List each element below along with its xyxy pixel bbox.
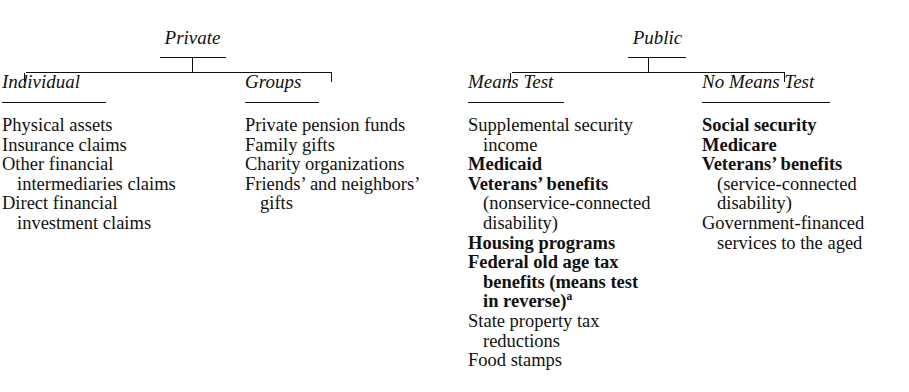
list-item: Direct financialinvestment claims xyxy=(2,194,217,233)
list-item: Government-financedservices to the aged xyxy=(702,214,907,253)
list-item-line: State property tax xyxy=(468,311,600,331)
list-item: Family gifts xyxy=(245,136,475,156)
list-item: State property taxreductions xyxy=(468,312,693,351)
column-list-means-test: Supplemental securityincomeMedicaidVeter… xyxy=(468,116,693,371)
list-item-line: Government-financed xyxy=(702,213,864,233)
column-list-no-means-test: Social securityMedicareVeterans’ benefit… xyxy=(702,116,907,253)
column-means-test: Means Test Supplemental securityincomeMe… xyxy=(468,72,693,371)
list-item-line: Medicaid xyxy=(468,154,542,174)
column-no-means-test: No Means Test Social securityMedicareVet… xyxy=(702,72,907,253)
list-item-continuation: (nonservice-connected xyxy=(468,194,693,214)
list-item-continuation: gifts xyxy=(245,194,475,214)
column-groups: Groups Private pension fundsFamily gifts… xyxy=(245,72,475,214)
list-item: Housing programs xyxy=(468,234,693,254)
list-item: Friends’ and neighbors’gifts xyxy=(245,175,475,214)
column-heading-individual: Individual xyxy=(2,72,217,91)
root-label-public: Public xyxy=(610,28,705,47)
list-item-continuation: income xyxy=(468,136,693,156)
list-item: Veterans’ benefits(service-connecteddisa… xyxy=(702,155,907,214)
list-item-line: Medicare xyxy=(702,135,777,155)
list-item-line: Physical assets xyxy=(2,115,112,135)
list-item-line: Insurance claims xyxy=(2,135,127,155)
column-individual: Individual Physical assetsInsurance clai… xyxy=(2,72,217,234)
list-item-continuation: disability) xyxy=(468,214,693,234)
list-item-line: Family gifts xyxy=(245,135,335,155)
list-item-line: Social security xyxy=(702,115,817,135)
list-item-line: Housing programs xyxy=(468,233,615,253)
list-item-continuation: benefits (means test xyxy=(468,273,693,293)
list-item-continuation: reductions xyxy=(468,332,693,352)
list-item-line: Private pension funds xyxy=(245,115,405,135)
list-item: Insurance claims xyxy=(2,136,217,156)
list-item: Federal old age taxbenefits (means testi… xyxy=(468,253,693,312)
classification-diagram: Private Individual Physical assetsInsura… xyxy=(0,0,909,392)
column-heading-means-test: Means Test xyxy=(468,72,693,91)
list-item: Physical assets xyxy=(2,116,217,136)
list-item-continuation: in reverse)a xyxy=(468,292,693,312)
root-label-private: Private xyxy=(140,28,245,47)
list-item: Medicare xyxy=(702,136,907,156)
list-item-line: Veterans’ benefits xyxy=(702,154,842,174)
column-list-groups: Private pension fundsFamily giftsCharity… xyxy=(245,116,475,214)
list-item-continuation: investment claims xyxy=(2,214,217,234)
list-item: Charity organizations xyxy=(245,155,475,175)
list-item-continuation: services to the aged xyxy=(702,234,907,254)
root-rule-public xyxy=(628,57,686,58)
list-item-line: Charity organizations xyxy=(245,154,404,174)
list-item-line: Direct financial xyxy=(2,193,118,213)
list-item: Private pension funds xyxy=(245,116,475,136)
list-item-continuation: intermediaries claims xyxy=(2,175,217,195)
list-item-line: Federal old age tax xyxy=(468,252,619,272)
list-item-continuation: disability) xyxy=(702,194,907,214)
list-item-line: Friends’ and neighbors’ xyxy=(245,174,420,194)
root-rule-private xyxy=(160,57,226,58)
list-item-continuation: (service-connected xyxy=(702,175,907,195)
list-item-line: Food stamps xyxy=(468,350,562,370)
column-rule-individual xyxy=(2,102,106,103)
list-item: Supplemental securityincome xyxy=(468,116,693,155)
stem-public xyxy=(648,57,649,73)
list-item-line: Supplemental security xyxy=(468,115,633,135)
column-heading-no-means-test: No Means Test xyxy=(702,72,907,91)
column-rule-no-means-test xyxy=(702,102,830,103)
column-list-individual: Physical assetsInsurance claimsOther fin… xyxy=(2,116,217,234)
list-item: Veterans’ benefits(nonservice-connectedd… xyxy=(468,175,693,234)
list-item: Social security xyxy=(702,116,907,136)
list-item: Medicaid xyxy=(468,155,693,175)
stem-private xyxy=(192,57,193,73)
footnote-marker: a xyxy=(566,290,572,302)
list-item-line: Veterans’ benefits xyxy=(468,174,608,194)
column-rule-groups xyxy=(245,102,319,103)
column-rule-means-test xyxy=(468,102,564,103)
column-heading-groups: Groups xyxy=(245,72,475,91)
list-item-line: Other financial xyxy=(2,154,113,174)
list-item: Food stamps xyxy=(468,351,693,371)
list-item: Other financialintermediaries claims xyxy=(2,155,217,194)
